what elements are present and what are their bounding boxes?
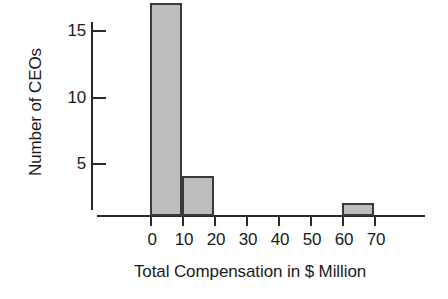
bar-60-70 [342,203,374,216]
histogram-figure: 15 10 5 0 10 20 30 40 50 60 70 Total Com… [0,0,448,299]
x-axis-title: Total Compensation in $ Million [60,262,440,282]
plot-area: 15 10 5 0 10 20 30 40 50 60 70 Total Com… [0,0,448,299]
bar-10-20 [182,176,214,216]
y-tick-10 [93,97,106,99]
x-tick-60 [342,216,344,226]
y-tick-label-5: 5 [52,155,86,172]
x-tick-10 [182,216,184,226]
x-tick-50 [310,216,312,226]
y-tick-label-10-wrap: 10 [48,89,86,106]
x-tick-30 [246,216,248,226]
y-tick-15 [93,30,106,32]
y-tick-label-15: 15 [52,22,86,39]
x-tick-20 [214,216,216,226]
x-tick-40 [278,216,280,226]
y-axis-line [91,22,93,210]
bar-0-10 [150,3,182,216]
y-tick-5 [93,163,106,165]
y-tick-label-10: 10 [52,89,86,106]
y-tick-label-5-wrap: 5 [48,155,86,172]
y-tick-label-15-wrap: 15 [48,22,86,39]
y-axis-title: Number of CEOs [26,32,46,192]
x-tick-label-70: 70 [356,230,396,249]
x-tick-0 [150,216,152,226]
x-tick-70 [374,216,376,226]
